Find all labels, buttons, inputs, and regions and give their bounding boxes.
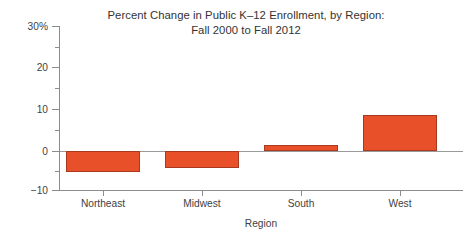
x-axis-title: Region (59, 218, 463, 229)
chart-title: Percent Change in Public K–12 Enrollment… (78, 8, 414, 38)
y-tick-25 (55, 47, 60, 48)
y-axis-label-10: 10 (4, 104, 48, 115)
bar-chart: Percent Change in Public K–12 Enrollment… (0, 0, 469, 246)
x-axis-label-south: South (288, 198, 315, 209)
y-axis-labels: 30% 20 10 0 −10 (0, 0, 48, 246)
bar-west (363, 115, 437, 151)
y-tick-0 (52, 151, 60, 152)
x-tick-midwest (202, 191, 203, 196)
y-tick-minus-10 (52, 190, 60, 191)
bar-northeast (66, 151, 140, 172)
x-tick-west (400, 191, 401, 196)
y-tick-10 (52, 109, 60, 110)
y-axis-label-20: 20 (4, 62, 48, 73)
x-axis-label-northeast: Northeast (81, 198, 125, 209)
y-tick-15 (55, 88, 60, 89)
y-axis-label-minus-10: −10 (4, 185, 48, 196)
x-tick-northeast (103, 191, 104, 196)
y-tick-5 (55, 130, 60, 131)
y-tick-30 (52, 26, 60, 27)
bar-south (264, 145, 338, 151)
y-tick-20 (52, 67, 60, 68)
x-tick-south (301, 191, 302, 196)
y-axis-label-30: 30% (4, 21, 48, 32)
x-axis-label-west: West (388, 198, 411, 209)
y-tick-minus-5 (55, 171, 60, 172)
y-axis-label-0: 0 (4, 146, 48, 157)
x-axis-label-midwest: Midwest (183, 198, 220, 209)
bar-midwest (165, 151, 239, 168)
x-axis-line (59, 190, 463, 191)
